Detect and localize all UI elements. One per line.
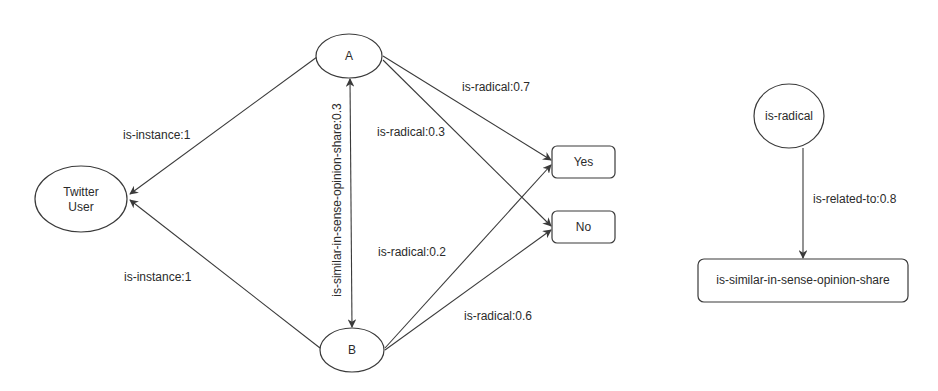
diagram-canvas: is-instance:1 is-instance:1 is-similar-i… <box>0 0 938 391</box>
ellipse-shape <box>35 166 127 232</box>
node-label: A <box>345 49 353 63</box>
node-label: Yes <box>574 155 594 169</box>
node-label-line2: User <box>68 200 93 214</box>
edge-a-to-yes: is-radical:0.7 <box>383 56 551 160</box>
edge-a-to-twitter-user: is-instance:1 <box>123 57 317 194</box>
graph-svg: is-instance:1 is-instance:1 is-similar-i… <box>0 0 938 391</box>
edge-label: is-radical:0.2 <box>378 245 446 259</box>
node-is-radical[interactable]: is-radical <box>754 84 824 148</box>
arrow-line <box>130 57 317 194</box>
edge-label: is-instance:1 <box>124 270 192 284</box>
edge-label: is-instance:1 <box>123 128 191 142</box>
node-label: is-similar-in-sense-opinion-share <box>716 273 890 287</box>
edge-b-to-twitter-user: is-instance:1 <box>124 200 320 348</box>
node-a[interactable]: A <box>316 34 382 78</box>
edge-a-b-similar: is-similar-in-sense-opinion-share:0.3 <box>330 79 352 327</box>
edge-label: is-related-to:0.8 <box>813 192 897 206</box>
edge-label: is-radical:0.3 <box>377 125 445 139</box>
node-no[interactable]: No <box>552 211 615 243</box>
node-label: is-radical <box>765 109 813 123</box>
node-label: B <box>348 343 356 357</box>
node-twitter-user[interactable]: Twitter User <box>35 166 127 232</box>
node-is-similar-in-sense-opinion-share[interactable]: is-similar-in-sense-opinion-share <box>698 259 908 302</box>
node-label-line1: Twitter <box>63 185 98 199</box>
edge-label: is-radical:0.6 <box>464 309 532 323</box>
node-b[interactable]: B <box>320 328 384 372</box>
edge-label: is-similar-in-sense-opinion-share:0.3 <box>330 103 344 297</box>
node-yes[interactable]: Yes <box>552 146 615 178</box>
node-label: No <box>576 220 592 234</box>
bidirectional-arrow-line <box>350 79 352 327</box>
arrow-line <box>383 56 551 160</box>
edge-is-radical-to-similar: is-related-to:0.8 <box>803 148 897 258</box>
edge-label: is-radical:0.7 <box>462 80 530 94</box>
